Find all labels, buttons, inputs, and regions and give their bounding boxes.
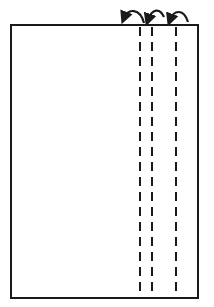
fold-arrow-icon-1 (124, 11, 144, 23)
fold-diagram (0, 0, 214, 307)
paper-sheet (11, 25, 198, 298)
fold-arrow-icon-3 (170, 12, 188, 22)
fold-arrow-icon-2 (148, 11, 164, 20)
